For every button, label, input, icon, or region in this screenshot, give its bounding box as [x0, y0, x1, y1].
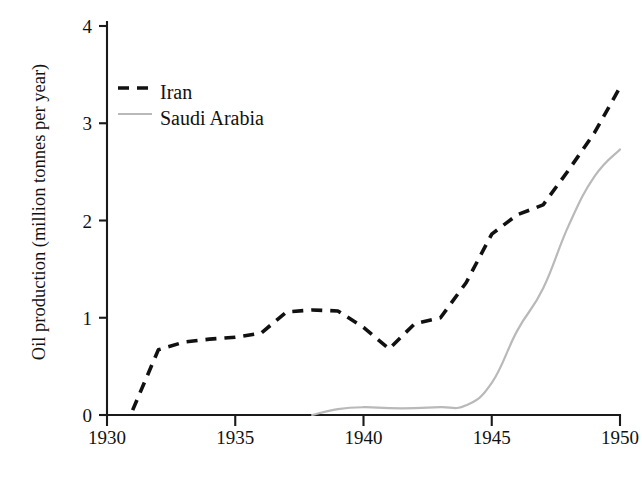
legend-label-saudi-arabia: Saudi Arabia	[160, 108, 264, 128]
x-tick-label-1935: 1935	[216, 428, 254, 447]
y-axis-ticks	[99, 26, 107, 415]
x-tick-label-1950: 1950	[601, 428, 639, 447]
oil-production-line-chart: Oil production (million tonnes per year)…	[0, 0, 642, 480]
y-tick-label-3: 3	[83, 114, 93, 133]
y-tick-label-2: 2	[83, 211, 93, 230]
y-tick-label-0: 0	[83, 406, 93, 425]
legend-label-iran: Iran	[160, 82, 192, 102]
x-tick-label-1945: 1945	[473, 428, 511, 447]
series-line-iran	[133, 87, 620, 410]
y-tick-label-1: 1	[83, 308, 93, 327]
x-tick-label-1940: 1940	[345, 428, 383, 447]
x-tick-label-1930: 1930	[88, 428, 126, 447]
y-tick-label-4: 4	[83, 17, 93, 36]
y-axis-title: Oil production (million tonnes per year)	[22, 0, 56, 432]
plot-area	[0, 0, 642, 480]
x-axis-ticks	[107, 415, 620, 426]
